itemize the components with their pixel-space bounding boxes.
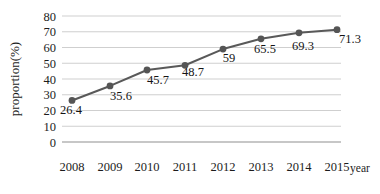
data-label-2008: 26.4: [60, 103, 83, 117]
xtick-label: 2010: [135, 160, 160, 174]
chart-canvas: 80 70 60 50 40 30 20 10 0 proportion(%): [0, 0, 380, 194]
ytick-label: 60: [44, 41, 57, 55]
data-label-2011: 48.7: [182, 65, 204, 79]
data-point-2014: [296, 29, 303, 36]
y-axis-ticks: 80 70 60 50 40 30 20 10 0: [44, 10, 57, 150]
xtick-label: 2011: [173, 160, 198, 174]
ytick-label: 40: [44, 73, 57, 87]
ytick-label: 10: [44, 120, 57, 134]
ytick-label: 20: [44, 104, 57, 118]
ytick-label: 70: [44, 25, 57, 39]
ytick-label: 80: [44, 10, 57, 24]
xtick-label: 2012: [211, 160, 236, 174]
xtick-label: 2013: [249, 160, 274, 174]
xtick-label: 2009: [98, 160, 123, 174]
xtick-label: 2008: [60, 160, 85, 174]
data-label-2015: 71.3: [339, 32, 361, 46]
ytick-label: 0: [50, 136, 56, 150]
data-label-2012: 59: [223, 51, 236, 65]
line-chart: 80 70 60 50 40 30 20 10 0 proportion(%): [0, 0, 380, 194]
data-label-2009: 35.6: [110, 89, 132, 103]
data-label-2010: 45.7: [147, 73, 169, 87]
data-labels: 26.4 35.6 45.7 48.7 59 65.5 69.3 71.3: [60, 32, 361, 117]
ytick-label: 50: [44, 57, 57, 71]
xtick-label: 2015: [325, 160, 350, 174]
xtick-label: 2014: [287, 160, 313, 174]
x-axis-title: year: [350, 162, 370, 175]
data-label-2013: 65.5: [254, 42, 276, 56]
ytick-label: 30: [44, 88, 57, 102]
x-axis-ticks: 2008 2009 2010 2011 2012 2013 2014 2015: [60, 160, 350, 174]
y-axis-title: proportion(%): [7, 42, 22, 116]
data-label-2014: 69.3: [292, 39, 314, 53]
